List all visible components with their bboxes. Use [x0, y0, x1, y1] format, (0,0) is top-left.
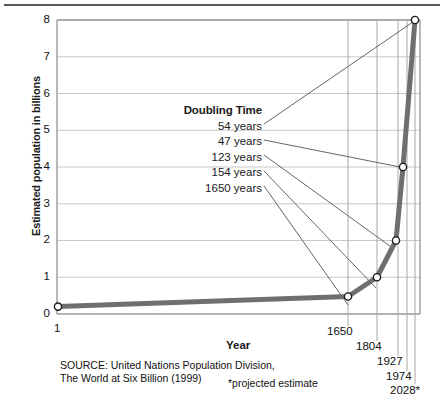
- y-tick-label-8: 8: [24, 13, 50, 25]
- legend-row-1650-years: 1650 years: [118, 181, 264, 196]
- legend-row-47-years: 47 years: [118, 134, 264, 149]
- x-tick-label-1927: 1927: [377, 355, 403, 367]
- legend-row-54-years: 54 years: [118, 119, 264, 134]
- y-tick-label-0: 0: [24, 307, 50, 319]
- x-tick-label-1: 1: [54, 322, 60, 334]
- leader-54-years: [264, 22, 413, 124]
- data-point-year-1: [54, 303, 61, 310]
- data-point-year-1974: [399, 163, 406, 170]
- legend-leader-lines: [264, 22, 413, 305]
- x-axis-title: Year: [226, 339, 250, 351]
- projected-estimate-footnote: *projected estimate: [228, 377, 318, 389]
- data-point-year-1804: [373, 274, 380, 281]
- population-growth-chart-figure: Estimated population in billions 8 7 6 5…: [0, 0, 446, 408]
- legend-row-123-years: 123 years: [118, 150, 264, 165]
- legend-row-154-years: 154 years: [118, 165, 264, 180]
- y-axis-title: Estimated population in billions: [30, 56, 42, 256]
- x-tick-label-2028: 2028*: [390, 384, 420, 396]
- x-tick-label-1650: 1650: [327, 325, 353, 337]
- legend-title: Doubling Time: [118, 104, 264, 116]
- doubling-time-legend: Doubling Time 54 years 47 years 123 year…: [118, 104, 264, 196]
- y-tick-label-4: 4: [24, 160, 50, 172]
- y-tick-label-5: 5: [24, 123, 50, 135]
- x-tick-label-1974: 1974: [386, 370, 412, 382]
- y-tick-label-2: 2: [24, 233, 50, 245]
- y-tick-label-3: 3: [24, 197, 50, 209]
- leader-123-years: [264, 155, 394, 249]
- y-tick-label-1: 1: [24, 270, 50, 282]
- data-point-year-1650: [344, 293, 351, 300]
- source-line-1: SOURCE: United Nations Population Divisi…: [60, 359, 275, 372]
- x-tick-label-1804: 1804: [356, 340, 382, 352]
- leader-154-years: [264, 171, 376, 288]
- y-tick-label-6: 6: [24, 87, 50, 99]
- data-point-year-1927: [392, 237, 399, 244]
- y-tick-label-7: 7: [24, 50, 50, 62]
- data-point-year-2028: [411, 16, 418, 23]
- leader-47-years: [264, 140, 400, 167]
- x-tick-droplines: [348, 20, 415, 384]
